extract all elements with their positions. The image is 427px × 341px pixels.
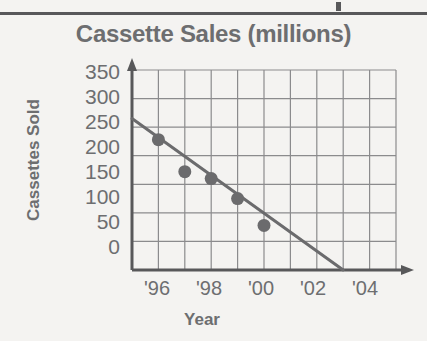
data-point-2000: [258, 219, 271, 232]
chart-figure: Cassette Sales (millions) Cassettes Sold…: [0, 0, 427, 341]
axis-lines: [127, 58, 414, 275]
data-point-1998: [205, 172, 218, 185]
gridlines: [132, 70, 396, 270]
data-point-1996: [152, 133, 165, 146]
data-point-1999: [231, 192, 244, 205]
plot-area: [0, 0, 427, 341]
data-point-1997: [178, 165, 191, 178]
